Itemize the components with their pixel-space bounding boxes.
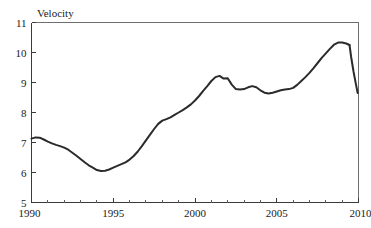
y-tick-label: 11 [16, 17, 27, 29]
y-tick-label: 6 [21, 167, 27, 179]
y-axis-title: Velocity [37, 7, 74, 19]
y-tick-label: 10 [16, 47, 28, 59]
y-tick-label: 8 [21, 107, 27, 119]
x-tick-label: 1995 [102, 207, 125, 219]
y-tick-label: 7 [21, 137, 27, 149]
x-tick-label: 2000 [184, 207, 207, 219]
x-tick-label: 2005 [266, 207, 289, 219]
y-tick-label: 9 [21, 77, 27, 89]
chart-background [0, 0, 371, 228]
x-tick-label: 1990 [19, 207, 42, 219]
velocity-line-chart: 567891011 19901995200020052010 Velocity [0, 0, 371, 228]
chart-figure: 567891011 19901995200020052010 Velocity [0, 0, 371, 228]
x-tick-label: 2010 [350, 207, 371, 219]
